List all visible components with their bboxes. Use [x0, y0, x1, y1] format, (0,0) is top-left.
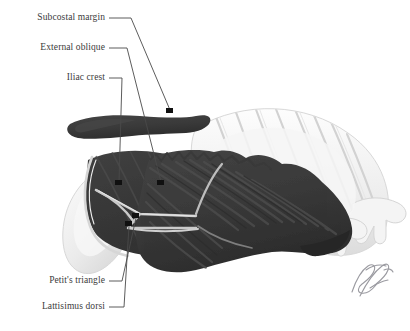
artist-signature — [0, 0, 410, 331]
anatomical-illustration: Subcostal margin External oblique Iliac … — [0, 0, 410, 331]
